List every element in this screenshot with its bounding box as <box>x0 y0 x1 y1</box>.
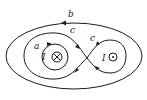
loop-c-arrow-right-upper-icon <box>96 41 100 46</box>
label-b: b <box>68 9 74 19</box>
loop-c-arrow-upper-icon <box>75 44 80 49</box>
label-a: a <box>34 41 39 51</box>
label-current-right: I <box>101 53 106 63</box>
ampere-loop-diagram: b c c a I I <box>0 0 147 100</box>
current-into-page-icon <box>52 52 62 62</box>
loop-a <box>42 44 68 70</box>
label-c-right: c <box>90 33 95 43</box>
loop-b-arrow-icon <box>61 21 66 26</box>
label-c-left: c <box>70 25 75 35</box>
current-out-of-page-icon <box>109 53 117 61</box>
label-current-left: I <box>41 52 46 62</box>
